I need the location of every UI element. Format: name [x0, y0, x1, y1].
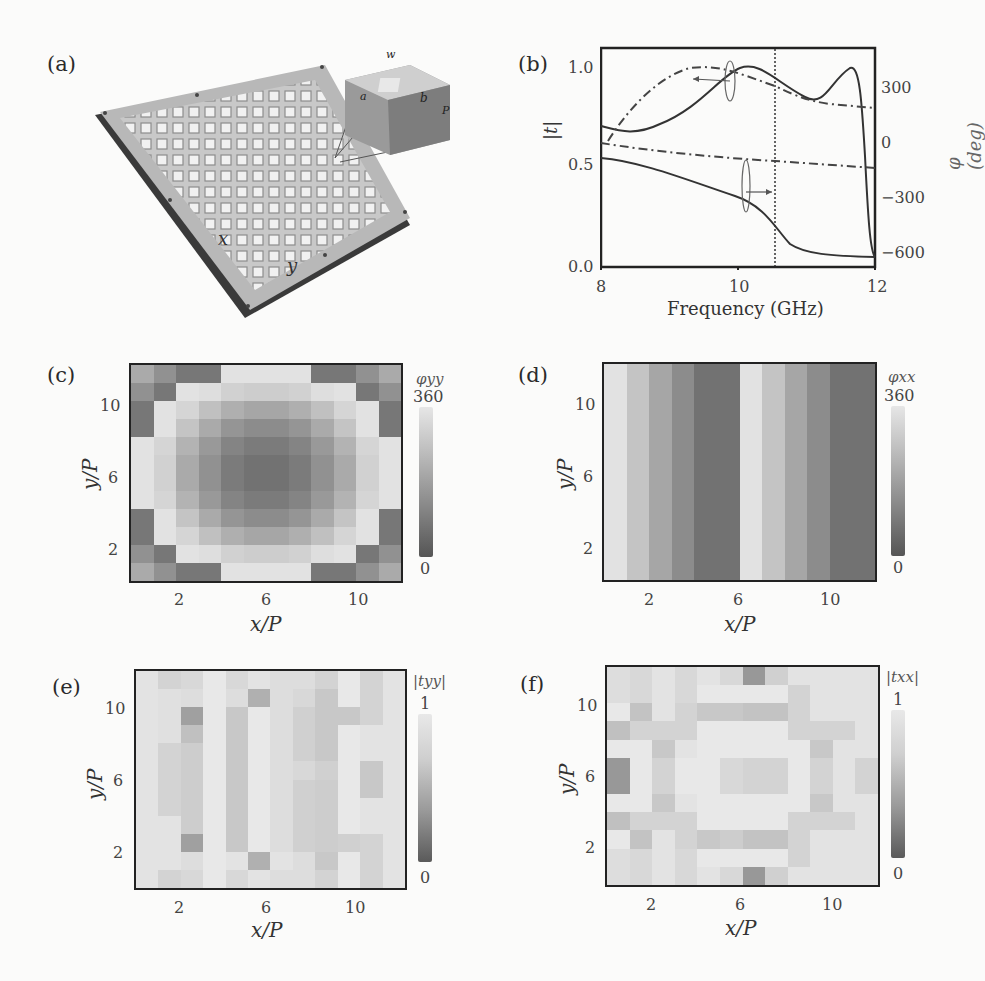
- heatmap-cell: [221, 419, 244, 437]
- heatmap-cell: [203, 671, 225, 689]
- heatmap-cell: [717, 436, 740, 454]
- heatmap-cell: [379, 491, 402, 509]
- heatmap-cell: [717, 508, 740, 526]
- heatmap-cell: [717, 472, 740, 490]
- heatmap-cell: [315, 761, 337, 779]
- heatmap-cell: [830, 544, 853, 562]
- heatmap-cell: [266, 437, 289, 455]
- heatmap-cell: [315, 870, 337, 888]
- heatmap-cell: [221, 509, 244, 527]
- heatmap-cell: [154, 491, 177, 509]
- c-ytick-6: 6: [108, 468, 118, 487]
- heatmap-cell: [627, 562, 650, 580]
- c-xtick-10: 10: [348, 590, 368, 609]
- heatmap-cell: [810, 667, 833, 685]
- heatmap-cell: [788, 794, 811, 812]
- heatmap-cell: [289, 509, 312, 527]
- heatmap-cell: [720, 703, 743, 721]
- heatmap-cell: [334, 527, 357, 545]
- heatmap-cell: [338, 707, 360, 725]
- heatmap-cell: [675, 794, 698, 812]
- heatmap-cell: [627, 400, 650, 418]
- heatmap-cell: [131, 473, 154, 491]
- heatmap-cell: [740, 382, 763, 400]
- heatmap-cell: [607, 703, 630, 721]
- heatmap-cell: [627, 526, 650, 544]
- b-ytick-left-1.0: 1.0: [568, 58, 593, 77]
- heatmap-cell: [379, 437, 402, 455]
- heatmap-cell: [334, 383, 357, 401]
- heatmap-cell: [356, 473, 379, 491]
- heatmap-cell: [226, 743, 248, 761]
- heatmap-cell: [293, 725, 315, 743]
- f-ylabel: y/P: [555, 764, 579, 796]
- heatmap-cell: [266, 419, 289, 437]
- heatmap-cell: [203, 725, 225, 743]
- heatmap-cell: [788, 740, 811, 758]
- heatmap-cell: [131, 509, 154, 527]
- heatmap-cell: [830, 472, 853, 490]
- heatmap-cell: [630, 740, 653, 758]
- heatmap-cell: [360, 780, 382, 798]
- heatmap-cell: [807, 400, 830, 418]
- c-colorbar-min: 0: [420, 559, 430, 578]
- heatmap-cell: [226, 707, 248, 725]
- heatmap-cell: [810, 849, 833, 867]
- heatmap-cell: [607, 685, 630, 703]
- heatmap-cell: [158, 671, 180, 689]
- heatmap-cell: [830, 508, 853, 526]
- heatmap-cell: [270, 780, 292, 798]
- heatmap-cell: [315, 689, 337, 707]
- heatmap-cell: [717, 454, 740, 472]
- heatmap-cell: [694, 472, 717, 490]
- heatmap-cell: [379, 383, 402, 401]
- heatmap-cell: [762, 400, 785, 418]
- heatmap-cell: [762, 508, 785, 526]
- heatmap-cell: [765, 830, 788, 848]
- heatmap-cell: [199, 563, 222, 581]
- heatmap-cell: [675, 758, 698, 776]
- heatmap-cell: [199, 419, 222, 437]
- f-xtick-2: 2: [646, 895, 656, 914]
- heatmap-cell: [855, 685, 878, 703]
- heatmap-cell: [762, 490, 785, 508]
- heatmap-cell: [785, 382, 808, 400]
- heatmap-cell: [356, 383, 379, 401]
- heatmap-cell: [270, 761, 292, 779]
- heatmap-cell: [154, 563, 177, 581]
- heatmap-cell: [762, 382, 785, 400]
- heatmap-cell: [694, 562, 717, 580]
- heatmap-cell: [244, 365, 267, 383]
- heatmap-cell: [176, 563, 199, 581]
- e-ytick-10: 10: [105, 699, 125, 718]
- heatmap-cell: [697, 740, 720, 758]
- heatmap-cell: [270, 725, 292, 743]
- heatmap-cell: [199, 365, 222, 383]
- heatmap-cell: [652, 776, 675, 794]
- heatmap-cell: [630, 685, 653, 703]
- heatmap-cell: [154, 473, 177, 491]
- heatmap-cell: [311, 563, 334, 581]
- heatmap-cell: [697, 721, 720, 739]
- heatmap-cell: [810, 685, 833, 703]
- heatmap-cell: [810, 867, 833, 885]
- heatmap-cell: [221, 527, 244, 545]
- heatmap-cell: [720, 776, 743, 794]
- heatmap-cell: [293, 834, 315, 852]
- heatmap-cell: [293, 743, 315, 761]
- heatmap-cell: [697, 758, 720, 776]
- amplitude-yy-heatmap: [134, 669, 407, 890]
- heatmap-cell: [762, 418, 785, 436]
- heatmap-cell: [694, 490, 717, 508]
- heatmap-cell: [379, 401, 402, 419]
- heatmap-cell: [131, 401, 154, 419]
- heatmap-cell: [720, 685, 743, 703]
- heatmap-cell: [334, 473, 357, 491]
- heatmap-cell: [334, 509, 357, 527]
- heatmap-cell: [356, 419, 379, 437]
- c-ylabel: y/P: [78, 459, 102, 491]
- heatmap-cell: [338, 743, 360, 761]
- heatmap-cell: [852, 436, 875, 454]
- b-ytick-left-0.5: 0.5: [568, 155, 593, 174]
- heatmap-cell: [379, 545, 402, 563]
